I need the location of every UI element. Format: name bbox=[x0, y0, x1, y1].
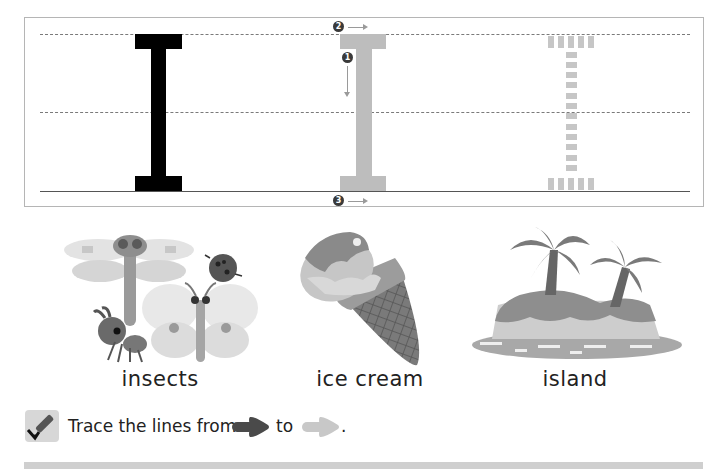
stroke-2-right-arrow-icon bbox=[348, 27, 364, 28]
instruction-prefix: Trace the lines from bbox=[68, 416, 236, 436]
stroke-marker-2: 2 bbox=[333, 21, 344, 32]
light-arrow-icon bbox=[302, 416, 340, 438]
crayon-check-icon bbox=[25, 410, 59, 442]
bottom-divider-bar bbox=[24, 462, 703, 469]
instruction-text: Trace the lines from bbox=[68, 416, 236, 436]
instruction-to: to bbox=[276, 416, 293, 436]
stroke-1-down-arrow-icon bbox=[347, 66, 348, 93]
stroke-marker-1: 1 bbox=[342, 52, 353, 63]
word-insects: insects bbox=[90, 367, 230, 391]
dark-arrow-icon bbox=[232, 416, 270, 438]
stroke-marker-3: 3 bbox=[333, 195, 344, 206]
insects-icon bbox=[60, 228, 260, 368]
stroke-3-right-arrow-icon bbox=[348, 201, 364, 202]
island-icon bbox=[470, 225, 685, 365]
ice-cream-icon bbox=[295, 228, 425, 368]
baseline bbox=[40, 191, 690, 192]
instruction-period: . bbox=[341, 416, 346, 436]
word-ice-cream: ice cream bbox=[295, 367, 445, 391]
word-island: island bbox=[520, 367, 630, 391]
